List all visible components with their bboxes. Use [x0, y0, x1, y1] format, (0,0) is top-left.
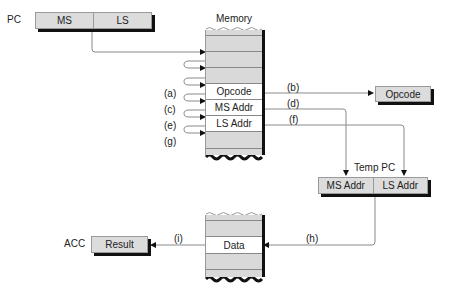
pc-label: PC — [7, 14, 21, 25]
memory-row — [206, 52, 262, 68]
data-memory-block: Data — [205, 215, 265, 277]
pc-register: MS LS — [35, 12, 152, 29]
data-memory-row — [206, 221, 262, 237]
temp-pc-ms-cell: MS Addr — [319, 178, 373, 193]
opcode-register-label: Opcode — [376, 87, 430, 101]
data-memory-row — [206, 254, 262, 270]
pc-ls-cell: LS — [93, 13, 151, 28]
step-label-f: (f) — [289, 114, 298, 125]
step-label-h: (h) — [306, 233, 318, 244]
data-memory-row — [206, 270, 262, 277]
step-label-d: (d) — [287, 98, 299, 109]
temp-pc-ls-cell: LS Addr — [373, 178, 428, 193]
memory-row-ms-addr: MS Addr — [206, 100, 262, 116]
acc-result-cell: Result — [92, 237, 147, 252]
temp-pc-register: MS Addr LS Addr — [318, 177, 428, 194]
temp-pc-label: Temp PC — [354, 162, 395, 173]
memory-row — [206, 132, 262, 149]
acc-label: ACC — [64, 238, 85, 249]
step-label-a: (a) — [164, 88, 176, 99]
memory-row — [206, 68, 262, 84]
memory-row-opcode: Opcode — [206, 84, 262, 100]
step-label-c: (c) — [164, 104, 176, 115]
pc-ms-cell: MS — [36, 13, 93, 28]
step-label-b: (b) — [287, 82, 299, 93]
memory-block: Opcode MS Addr LS Addr — [205, 30, 265, 155]
data-memory-row-data: Data — [206, 237, 262, 254]
step-label-e: (e) — [164, 120, 176, 131]
memory-row-ls-addr: LS Addr — [206, 116, 262, 132]
memory-row — [206, 36, 262, 52]
memory-title: Memory — [216, 13, 252, 24]
step-label-i: (i) — [174, 233, 183, 244]
acc-register: Result — [91, 236, 148, 253]
opcode-register: Opcode — [375, 86, 431, 102]
step-label-g: (g) — [164, 136, 176, 147]
memory-row — [206, 149, 262, 155]
